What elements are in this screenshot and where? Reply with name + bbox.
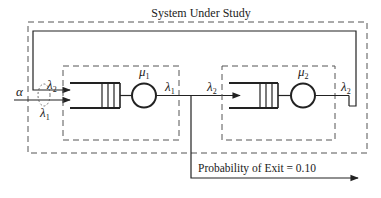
system-title: System Under Study [151,6,250,20]
feedback-loop-line [33,31,356,106]
system-boundary [28,22,367,153]
merge-lambda-1-label: λ1 [39,105,50,122]
station-1-boundary [63,66,179,140]
server-2-icon [291,84,315,108]
station-2-output-lambda-label: λ2 [340,79,351,96]
station-2-input-lambda-label: λ2 [206,79,217,96]
mu-2-label: μ2 [297,64,309,81]
exit-probability-label: Probability of Exit = 0.10 [198,162,316,175]
merge-lambda-2-label: λ2 [46,77,57,94]
queueing-network-diagram: System Under Study α λ2 [0,0,381,198]
mu-1-label: μ1 [138,64,150,81]
alpha-label: α [16,84,24,99]
server-1-icon [132,84,156,108]
station-1-output-lambda-label: λ1 [164,79,175,96]
queue-1-icon [70,83,120,108]
